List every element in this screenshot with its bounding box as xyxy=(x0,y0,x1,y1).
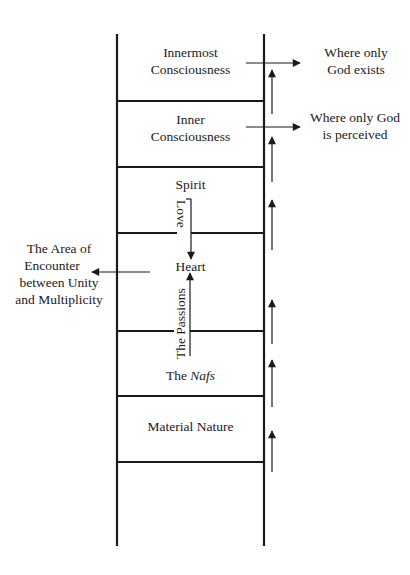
annotation-line: Where only God xyxy=(300,109,410,126)
level-label-line: Inner xyxy=(117,111,264,128)
level-label-line: Consciousness xyxy=(117,128,264,145)
annotation-line: The Area of xyxy=(4,240,114,257)
level-label-line: Consciousness xyxy=(117,61,264,78)
annotation-encounter: The Area of Encounter between Unity and … xyxy=(4,240,114,308)
level-heart: Heart xyxy=(117,258,264,275)
annotation-line: Where only xyxy=(306,44,406,61)
level-innermost-consciousness: Innermost Consciousness xyxy=(117,44,264,78)
annotation-line: and Multiplicity xyxy=(4,291,114,308)
annotation-line: Encounter xyxy=(4,257,114,274)
level-spirit: Spirit xyxy=(117,176,264,193)
level-label: Spirit xyxy=(175,177,205,192)
level-nafs: The Nafs xyxy=(117,367,264,384)
annotation-line: God exists xyxy=(306,61,406,78)
annotation-line: is perceived xyxy=(300,126,410,143)
level-label: Material Nature xyxy=(148,419,234,434)
annotation-god-exists: Where only God exists xyxy=(306,44,406,78)
ladder-diagram: Innermost Consciousness Inner Consciousn… xyxy=(0,0,410,575)
level-material-nature: Material Nature xyxy=(117,418,264,435)
annotation-line: between Unity xyxy=(4,274,114,291)
level-label-line: Innermost xyxy=(117,44,264,61)
level-label-italic: Nafs xyxy=(190,368,215,383)
level-label-prefix: The xyxy=(166,368,190,383)
level-inner-consciousness: Inner Consciousness xyxy=(117,111,264,145)
love-label: Love xyxy=(174,200,188,228)
level-label: Heart xyxy=(176,259,206,274)
annotation-god-perceived: Where only God is perceived xyxy=(300,109,410,143)
passions-label: The Passions xyxy=(174,288,188,359)
